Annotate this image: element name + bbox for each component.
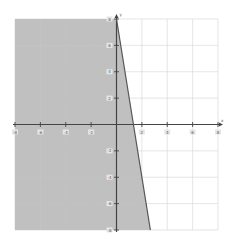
svg-text:-8: -8 <box>108 228 112 233</box>
svg-text:-6: -6 <box>108 201 112 206</box>
svg-text:-2: -2 <box>108 148 112 153</box>
y-axis-arrow-icon <box>115 14 119 18</box>
svg-text:6: 6 <box>108 43 111 48</box>
svg-text:-4: -4 <box>108 175 112 180</box>
inequality-graph: x y -8-6-4-224688642-2-4-6-8 <box>0 0 234 244</box>
svg-text:2: 2 <box>108 96 111 101</box>
svg-text:6: 6 <box>191 130 194 135</box>
svg-text:8: 8 <box>217 130 220 135</box>
svg-text:-2: -2 <box>89 130 93 135</box>
x-axis-arrow-icon <box>219 123 223 127</box>
y-axis-label: y <box>120 12 123 17</box>
svg-text:-4: -4 <box>64 130 68 135</box>
svg-text:4: 4 <box>108 69 111 74</box>
x-axis-label: x <box>221 118 224 123</box>
svg-text:4: 4 <box>166 130 169 135</box>
svg-text:-8: -8 <box>13 130 17 135</box>
svg-text:8: 8 <box>108 17 111 22</box>
svg-text:-6: -6 <box>38 130 42 135</box>
svg-text:2: 2 <box>141 130 144 135</box>
